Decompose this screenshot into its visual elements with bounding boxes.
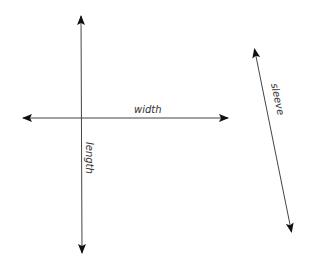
length-arrow-line <box>81 16 82 253</box>
sleeve-measurement: sleeve <box>255 49 292 232</box>
sleeve-label: sleeve <box>269 82 286 116</box>
length-measurement: length <box>81 16 95 253</box>
width-measurement: width <box>23 104 228 118</box>
sleeve-arrow-line <box>255 49 292 232</box>
length-label: length <box>84 142 95 174</box>
measurement-diagram: length width sleeve <box>0 0 311 270</box>
width-label: width <box>134 104 162 115</box>
